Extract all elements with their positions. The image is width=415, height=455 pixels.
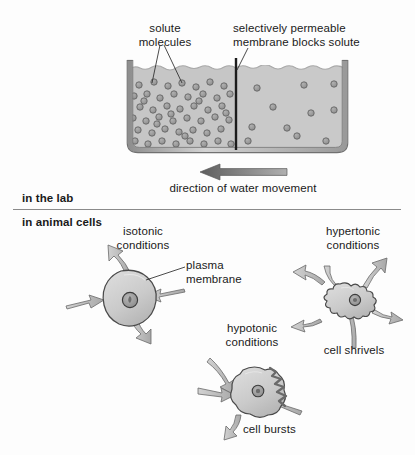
- hypertonic-nucleolus: [353, 298, 357, 302]
- isotonic-conditions-label: isotonic conditions: [97, 225, 189, 252]
- section-in-the-lab: in the lab: [22, 192, 73, 206]
- figure-canvas: solute molecules selectively permeable m…: [0, 0, 415, 455]
- cell-shrivels-label: cell shrivels: [308, 344, 400, 358]
- plasma-membrane-leader-line: [146, 267, 185, 280]
- cell-bursts-label: cell bursts: [243, 423, 335, 437]
- water-movement-caption: direction of water movement: [148, 182, 338, 196]
- water-movement-arrow: [200, 164, 287, 180]
- plasma-membrane-label: plasma membrane: [186, 259, 271, 286]
- section-divider-rule: [13, 209, 401, 210]
- solute-molecules-label: solute molecules: [120, 22, 210, 49]
- hypotonic-nucleolus: [256, 389, 260, 393]
- membrane-label: selectively permeable membrane blocks so…: [233, 22, 408, 49]
- hypotonic-conditions-label: hypotonic conditions: [205, 322, 299, 349]
- beaker-group: [127, 45, 348, 180]
- hypertonic-conditions-label: hypertonic conditions: [306, 225, 400, 252]
- cell-isotonic-group: [66, 245, 185, 344]
- cell-hypertonic-group: [291, 258, 403, 348]
- section-in-animal-cells: in animal cells: [22, 216, 102, 230]
- fluid-right: [236, 65, 346, 152]
